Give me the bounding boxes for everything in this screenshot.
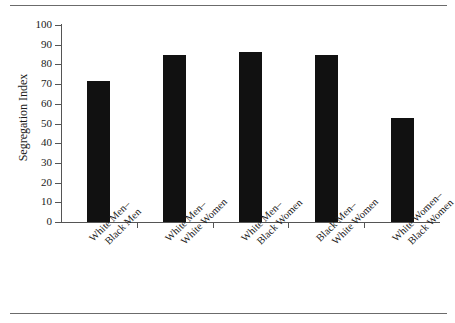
y-axis-tick	[55, 64, 61, 65]
y-axis-tick	[55, 163, 61, 164]
y-axis-tick	[55, 84, 61, 85]
y-axis-tick-label: 60	[26, 98, 52, 109]
y-axis-tick-label: 80	[26, 58, 52, 69]
y-axis-tick	[55, 104, 61, 105]
bar	[87, 81, 110, 222]
bar	[315, 55, 338, 222]
y-axis-tick	[55, 202, 61, 203]
y-axis-tick	[55, 143, 61, 144]
y-axis-tick-label: 10	[26, 196, 52, 207]
y-axis-tick	[55, 183, 61, 184]
y-axis-tick	[55, 124, 61, 125]
bar	[163, 55, 186, 222]
y-axis-tick-label: 0	[26, 216, 52, 227]
y-axis-tick-label: 90	[26, 39, 52, 50]
x-axis-tick	[364, 222, 365, 228]
x-axis-tick	[137, 222, 138, 228]
y-axis-tick-label: 40	[26, 137, 52, 148]
figure: Segregation Index 0102030405060708090100…	[0, 0, 455, 323]
x-axis-tick	[288, 222, 289, 228]
bar	[391, 118, 414, 222]
bar-chart-plot: Segregation Index 0102030405060708090100…	[0, 0, 455, 323]
y-axis-tick-label: 30	[26, 157, 52, 168]
y-axis-tick-label: 70	[26, 78, 52, 89]
y-axis-tick-label: 20	[26, 177, 52, 188]
x-axis-tick	[213, 222, 214, 228]
y-axis-tick	[55, 25, 61, 26]
y-axis-tick	[55, 222, 61, 223]
y-axis-line	[61, 24, 62, 223]
bar	[239, 52, 262, 222]
y-axis-tick-label: 50	[26, 118, 52, 129]
y-axis-tick	[55, 45, 61, 46]
y-axis-tick-label: 100	[26, 19, 52, 30]
